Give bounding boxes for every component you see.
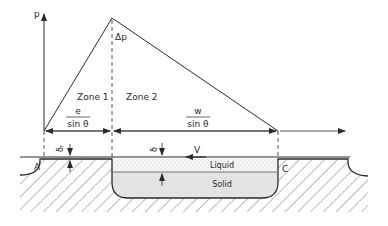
velocity-arrow: V bbox=[186, 145, 206, 157]
svg-text:δ: δ bbox=[150, 147, 159, 152]
liquid-label: Liquid bbox=[210, 161, 234, 170]
pressure-distribution-diagram: p Δp Zone 1 Zone 2 e sin θ w sin θ δᵣ δ bbox=[0, 0, 388, 226]
point-c-label: C bbox=[282, 164, 288, 174]
p-axis-label: p bbox=[34, 9, 40, 19]
solid-label: Solid bbox=[212, 180, 232, 189]
zone-2-label: Zone 2 bbox=[126, 92, 158, 102]
dimension-w: w sin θ bbox=[114, 106, 345, 131]
zone-1-label: Zone 1 bbox=[77, 92, 109, 102]
solid-region bbox=[112, 172, 278, 198]
dimension-e: e sin θ bbox=[46, 106, 110, 131]
point-a-label: A bbox=[34, 162, 41, 172]
svg-text:w: w bbox=[194, 106, 201, 116]
svg-text:sin θ: sin θ bbox=[187, 119, 209, 129]
liquid-region bbox=[112, 159, 278, 172]
dashed-guides bbox=[44, 20, 278, 160]
svg-text:V: V bbox=[194, 145, 201, 155]
svg-text:sin θ: sin θ bbox=[67, 119, 89, 129]
svg-text:e: e bbox=[75, 106, 81, 116]
svg-text:δᵣ: δᵣ bbox=[56, 144, 65, 152]
peak-pressure-label: Δp bbox=[115, 32, 127, 42]
